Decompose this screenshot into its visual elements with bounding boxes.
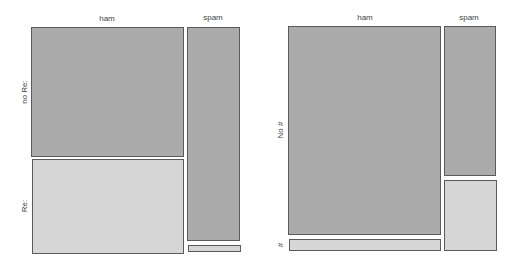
cell-ham-no-hash (288, 26, 441, 235)
cell-ham-hash (289, 239, 441, 251)
cell-spam-no-hash (444, 26, 496, 176)
y-label-no-hash: No # (276, 122, 285, 139)
mosaic-plot-hash: ham spam No # # (0, 0, 517, 266)
x-label-spam: spam (459, 13, 479, 22)
x-label-ham: ham (357, 13, 373, 22)
cell-spam-hash (444, 180, 497, 251)
y-label-hash: # (276, 243, 285, 247)
